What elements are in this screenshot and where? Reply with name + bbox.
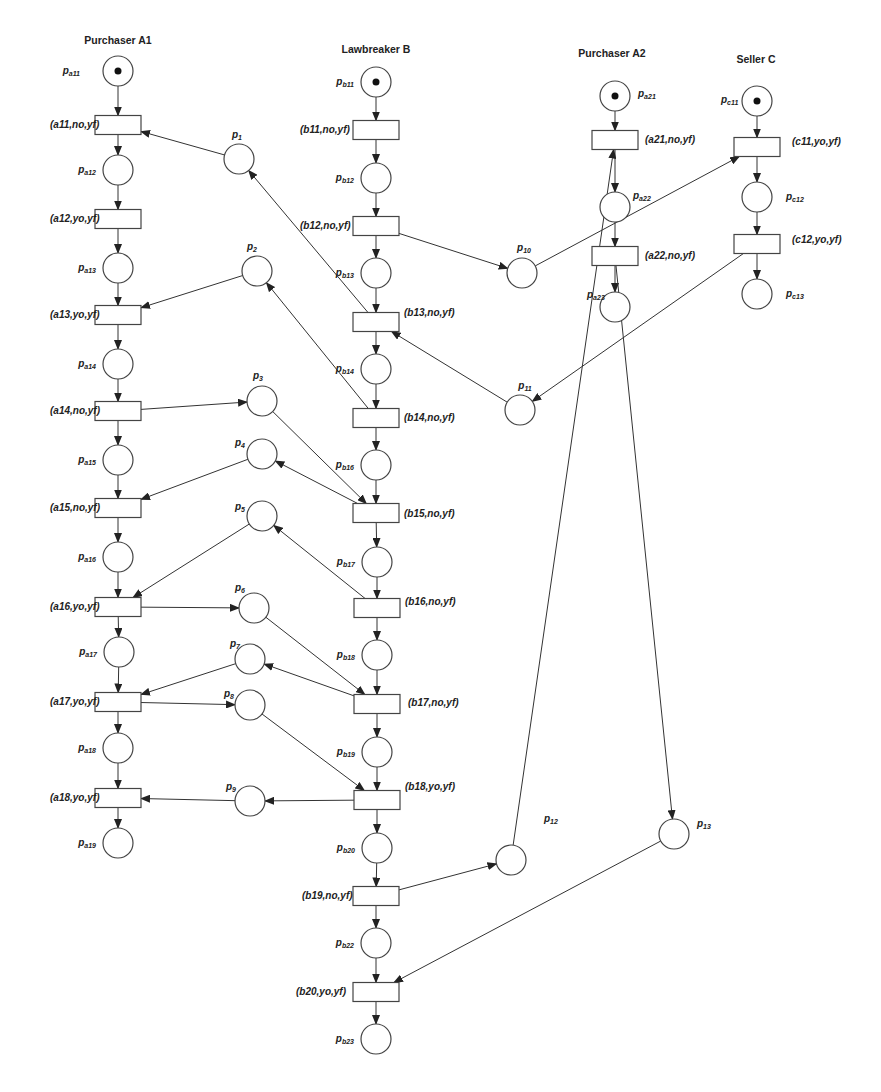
- place-circle: [103, 733, 133, 763]
- transition-label: (b11,no,yf): [300, 124, 350, 135]
- transition-box: [592, 131, 638, 150]
- arc-b12-to-p10: [399, 233, 508, 268]
- arc-p9-to-a18: [141, 799, 235, 801]
- place-label: p11: [517, 380, 531, 392]
- place-label: p3: [252, 370, 263, 382]
- place-p4: p4: [234, 437, 277, 469]
- place-pa12: pa12: [77, 155, 133, 185]
- token-icon: [754, 98, 761, 105]
- place-label: p10: [516, 242, 531, 254]
- place-p5: p5: [234, 501, 277, 531]
- place-p7: p7: [229, 638, 265, 674]
- place-pc12: pc12: [742, 182, 804, 212]
- place-circle: [507, 258, 537, 288]
- transition-a17: (a17,yo,yf): [50, 693, 141, 712]
- place-circle: [742, 182, 772, 212]
- place-pa23: pa23: [586, 289, 630, 322]
- place-label: pa11: [62, 65, 80, 77]
- transition-a14: (a14,no,yf): [50, 402, 141, 421]
- transition-label: (b17,no,yf): [408, 697, 459, 708]
- transition-box: [95, 598, 141, 617]
- arc-p13-to-b20: [394, 841, 661, 982]
- place-p10: p10: [507, 242, 537, 288]
- place-circle: [361, 354, 391, 384]
- place-pa14: pa14: [77, 349, 133, 379]
- arc-p1-to-a11: [141, 131, 225, 154]
- place-circle: [103, 155, 133, 185]
- transition-label: (a18,yo,yf): [50, 792, 100, 803]
- place-circle: [247, 501, 277, 531]
- place-label: p12: [543, 813, 558, 825]
- arc-p2-to-a13: [141, 276, 243, 308]
- place-pb23: pb23: [335, 1024, 391, 1054]
- place-pb17: pb17: [336, 547, 392, 577]
- transition-box: [353, 313, 399, 332]
- place-pb11: pb11: [335, 67, 391, 97]
- transition-box: [95, 693, 141, 712]
- place-label: pb22: [335, 937, 354, 949]
- place-label: pb18: [336, 649, 355, 661]
- transition-box: [592, 247, 638, 266]
- place-label: pc11: [720, 94, 738, 106]
- petri-net-diagram: Purchaser A1Lawbreaker BPurchaser A2Sell…: [0, 0, 881, 1092]
- arc-b18-to-p9: [265, 800, 354, 801]
- place-pb18: pb18: [336, 640, 392, 670]
- place-circle: [659, 819, 689, 849]
- place-circle: [361, 928, 391, 958]
- arc-b15-to-pb17: [376, 523, 377, 548]
- place-label: p9: [225, 781, 236, 793]
- place-pb12: pb12: [335, 163, 391, 193]
- place-circle: [103, 253, 133, 283]
- arc-a22-to-p13: [616, 266, 673, 820]
- place-label: pc13: [785, 288, 804, 300]
- place-pa16: pa16: [77, 542, 133, 572]
- place-label: p4: [234, 437, 245, 449]
- transition-label: (b18,yo,yf): [405, 781, 456, 792]
- place-circle: [235, 690, 265, 720]
- transition-a15: (a15,no,yf): [50, 499, 141, 518]
- place-pb14: pb14: [335, 354, 391, 384]
- transition-box: [95, 210, 141, 229]
- transition-b15: (b15,no,yf): [353, 504, 455, 523]
- place-pa19: pa19: [77, 828, 133, 858]
- transition-box: [95, 116, 141, 135]
- place-label: pa13: [77, 262, 96, 274]
- place-label: pb16: [335, 459, 354, 471]
- place-p3: p3: [247, 370, 277, 416]
- place-circle: [104, 637, 134, 667]
- place-circle: [103, 349, 133, 379]
- place-label: pa18: [77, 742, 96, 754]
- place-pb19: pb19: [336, 737, 392, 767]
- transition-c11: (c11,yo,yf): [734, 136, 841, 157]
- place-label: pb14: [335, 363, 354, 375]
- transition-box: [354, 599, 400, 618]
- place-pa21: pa21: [600, 81, 656, 111]
- transition-b16: (b16,no,yf): [354, 596, 456, 618]
- place-label: pa19: [77, 837, 96, 849]
- place-label: pc12: [785, 191, 804, 203]
- transition-label: (c11,yo,yf): [792, 136, 841, 147]
- lane-title-a2: Purchaser A2: [578, 47, 645, 59]
- transition-box: [353, 121, 399, 140]
- arc-b19-to-p12: [399, 864, 497, 890]
- place-pa18: pa18: [77, 733, 133, 763]
- place-label: pa21: [637, 88, 656, 100]
- transition-a18: (a18,yo,yf): [50, 789, 141, 808]
- place-label: pa23: [586, 289, 605, 301]
- arc-pa17-to-a17: [118, 667, 119, 693]
- place-label: pa15: [77, 454, 96, 466]
- transition-b12: (b12,no,yf): [300, 217, 399, 236]
- transition-box: [354, 695, 400, 714]
- transition-box: [95, 402, 141, 421]
- arc-a16-to-p6: [141, 607, 239, 608]
- transition-b13: (b13,no,yf): [353, 307, 455, 332]
- arc-p7-to-a17: [141, 664, 236, 695]
- place-label: pa17: [78, 646, 98, 658]
- place-circle: [247, 439, 277, 469]
- place-p9: p9: [225, 781, 265, 816]
- transition-b20: (b20,yo,yf): [296, 983, 399, 1002]
- place-pa11: pa11: [62, 56, 133, 86]
- lane-titles: Purchaser A1Lawbreaker BPurchaser A2Sell…: [84, 34, 776, 65]
- transition-box: [354, 791, 400, 810]
- lane-title-c: Seller C: [736, 53, 776, 65]
